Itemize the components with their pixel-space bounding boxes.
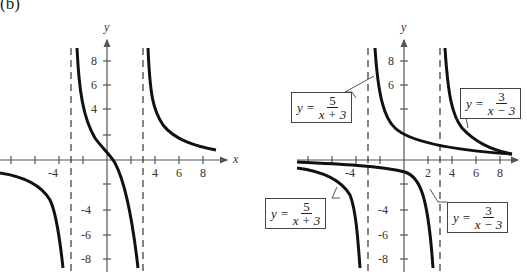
- right-y-tick-neg4: -4: [378, 203, 388, 218]
- callout-lower-right: y = 3x − 3: [447, 202, 508, 233]
- right-branch: [148, 48, 216, 150]
- numerator: 3: [496, 90, 507, 104]
- denominator: x − 3: [488, 104, 516, 117]
- right-y-tick-neg6: -6: [378, 228, 388, 243]
- left-y-tick-neg8: -8: [81, 252, 91, 267]
- left-y-axis-label: y: [104, 20, 109, 35]
- left-branch: [0, 173, 63, 268]
- left-x-tick-neg4: -4: [48, 166, 58, 181]
- charts-svg: [0, 0, 527, 277]
- left-x-tick-8: 8: [200, 166, 206, 181]
- right-chart: [297, 40, 518, 272]
- right-x-tick-2: 2: [425, 166, 431, 181]
- left-y-tick-6: 6: [91, 78, 97, 93]
- right-y-axis-label: y: [401, 20, 406, 35]
- left-y-tick-4: 4: [91, 102, 97, 117]
- callout-upper-left: y = 5x + 3: [291, 92, 352, 123]
- denominator: x + 3: [319, 108, 347, 121]
- right-x-tick-4: 4: [449, 166, 455, 181]
- right-x-tick-6: 6: [473, 166, 479, 181]
- callout-lhs: y =: [271, 206, 289, 222]
- fraction: 5x + 3: [293, 200, 321, 227]
- right-x-tick-8: 8: [497, 166, 503, 181]
- numerator: 5: [301, 200, 312, 214]
- right-y-tick-neg8: -8: [378, 252, 388, 267]
- left-y-tick-neg4: -4: [81, 203, 91, 218]
- numerator: 3: [483, 204, 494, 218]
- callout-lower-left: y = 5x + 3: [265, 198, 326, 229]
- callout-lhs: y =: [453, 210, 471, 226]
- right-x-tick-neg4: -4: [345, 166, 355, 181]
- left-y-tick-8: 8: [91, 54, 97, 69]
- denominator: x − 3: [475, 218, 503, 231]
- left-y-tick-neg6: -6: [81, 228, 91, 243]
- right-y-tick-6: 6: [388, 78, 394, 93]
- right-y-tick-8: 8: [388, 54, 394, 69]
- left-x-tick-6: 6: [176, 166, 182, 181]
- numerator: 5: [327, 94, 338, 108]
- left-chart: [0, 40, 227, 272]
- callout-lhs: y =: [466, 96, 484, 112]
- fraction: 3x − 3: [488, 90, 516, 117]
- left-x-tick-4: 4: [152, 166, 158, 181]
- callout-lhs: y =: [297, 100, 315, 116]
- callout-upper-right: y = 3x − 3: [460, 88, 521, 119]
- fraction: 3x − 3: [475, 204, 503, 231]
- left-x-axis-label: x: [233, 152, 238, 167]
- fraction: 5x + 3: [319, 94, 347, 121]
- denominator: x + 3: [293, 214, 321, 227]
